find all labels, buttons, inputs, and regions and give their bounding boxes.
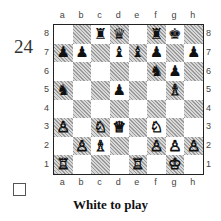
white-pawn-icon[interactable]: ♙ [187, 139, 200, 154]
black-queen-icon[interactable]: ♛ [112, 27, 125, 42]
square-g5[interactable]: ♗ [166, 81, 185, 100]
white-bishop-icon[interactable]: ♗ [94, 139, 107, 154]
square-f2[interactable]: ♙ [147, 137, 166, 156]
white-bishop-icon[interactable]: ♗ [168, 83, 181, 98]
black-pawn-icon[interactable]: ♟ [75, 45, 88, 60]
square-e3[interactable] [129, 118, 148, 137]
square-b3[interactable] [73, 118, 92, 137]
square-b5[interactable] [73, 81, 92, 100]
square-c7[interactable] [91, 44, 110, 63]
white-pawn-icon[interactable]: ♙ [168, 139, 181, 154]
square-h1[interactable] [184, 155, 203, 174]
square-g4[interactable] [166, 100, 185, 119]
black-knight-icon[interactable]: ♞ [150, 64, 163, 79]
square-b8[interactable] [73, 25, 92, 44]
square-a3[interactable]: ♙ [54, 118, 73, 137]
square-f3[interactable]: ♘ [147, 118, 166, 137]
puzzle-number: 24 [14, 36, 33, 58]
square-e8[interactable] [129, 25, 148, 44]
square-c1[interactable] [91, 155, 110, 174]
square-h4[interactable] [184, 100, 203, 119]
square-e7[interactable]: ♝ [129, 44, 148, 63]
square-f1[interactable] [147, 155, 166, 174]
square-g2[interactable]: ♙ [166, 137, 185, 156]
rank-labels-right: 8 7 6 5 4 3 2 1 [206, 24, 211, 173]
white-king-icon[interactable]: ♔ [168, 157, 181, 172]
white-pawn-icon[interactable]: ♙ [150, 139, 163, 154]
black-pawn-icon[interactable]: ♟ [168, 64, 181, 79]
square-b6[interactable] [73, 62, 92, 81]
square-b7[interactable]: ♟ [73, 44, 92, 63]
square-h3[interactable] [184, 118, 203, 137]
square-h6[interactable] [184, 62, 203, 81]
solved-checkbox[interactable] [13, 183, 26, 196]
square-b1[interactable] [73, 155, 92, 174]
black-pawn-icon[interactable]: ♟ [187, 45, 200, 60]
white-queen-icon[interactable]: ♕ [112, 120, 125, 135]
square-g3[interactable] [166, 118, 185, 137]
square-d4[interactable] [110, 100, 129, 119]
square-d6[interactable] [110, 62, 129, 81]
black-king-icon[interactable]: ♚ [168, 27, 181, 42]
square-a1[interactable]: ♖ [54, 155, 73, 174]
square-a2[interactable] [54, 137, 73, 156]
square-a7[interactable]: ♟ [54, 44, 73, 63]
square-f7[interactable]: ♟ [147, 44, 166, 63]
square-d2[interactable] [110, 137, 129, 156]
square-g7[interactable] [166, 44, 185, 63]
white-rook-icon[interactable]: ♖ [131, 157, 144, 172]
square-e1[interactable]: ♖ [129, 155, 148, 174]
white-pawn-icon[interactable]: ♙ [75, 139, 88, 154]
square-g6[interactable]: ♟ [166, 62, 185, 81]
square-d1[interactable] [110, 155, 129, 174]
square-f4[interactable] [147, 100, 166, 119]
square-h2[interactable]: ♙ [184, 137, 203, 156]
square-h7[interactable]: ♟ [184, 44, 203, 63]
white-pawn-icon[interactable]: ♙ [57, 120, 70, 135]
square-a4[interactable] [54, 100, 73, 119]
square-e2[interactable] [129, 137, 148, 156]
square-e6[interactable] [129, 62, 148, 81]
square-c3[interactable]: ♘ [91, 118, 110, 137]
black-bishop-icon[interactable]: ♝ [112, 45, 125, 60]
rank-label: 3 [44, 117, 49, 136]
square-e4[interactable] [129, 100, 148, 119]
square-b4[interactable] [73, 100, 92, 119]
square-f5[interactable] [147, 81, 166, 100]
white-rook-icon[interactable]: ♖ [57, 157, 70, 172]
square-f6[interactable]: ♞ [147, 62, 166, 81]
rank-label: 3 [206, 117, 211, 136]
black-bishop-icon[interactable]: ♝ [131, 45, 144, 60]
square-e5[interactable] [129, 81, 148, 100]
black-pawn-icon[interactable]: ♟ [150, 45, 163, 60]
square-c4[interactable] [91, 100, 110, 119]
file-label: f [146, 177, 165, 187]
square-c6[interactable] [91, 62, 110, 81]
square-c5[interactable] [91, 81, 110, 100]
black-rook-icon[interactable]: ♜ [150, 27, 163, 42]
square-d8[interactable]: ♛ [110, 25, 129, 44]
square-h5[interactable] [184, 81, 203, 100]
square-a5[interactable]: ♞ [54, 81, 73, 100]
square-c2[interactable]: ♗ [91, 137, 110, 156]
square-d5[interactable]: ♟ [110, 81, 129, 100]
square-f8[interactable]: ♜ [147, 25, 166, 44]
white-knight-icon[interactable]: ♘ [150, 120, 163, 135]
black-pawn-icon[interactable]: ♟ [57, 45, 70, 60]
square-d3[interactable]: ♕ [110, 118, 129, 137]
black-pawn-icon[interactable]: ♟ [112, 83, 125, 98]
square-d7[interactable]: ♝ [110, 44, 129, 63]
square-g1[interactable]: ♔ [166, 155, 185, 174]
square-b2[interactable]: ♙ [73, 137, 92, 156]
square-a6[interactable] [54, 62, 73, 81]
square-c8[interactable]: ♜ [91, 25, 110, 44]
rank-label: 7 [44, 43, 49, 62]
file-label: h [183, 10, 202, 20]
black-rook-icon[interactable]: ♜ [94, 27, 107, 42]
black-knight-icon[interactable]: ♞ [57, 83, 70, 98]
square-g8[interactable]: ♚ [166, 25, 185, 44]
square-h8[interactable] [184, 25, 203, 44]
white-knight-icon[interactable]: ♘ [94, 120, 107, 135]
square-a8[interactable] [54, 25, 73, 44]
file-label: a [53, 177, 72, 187]
